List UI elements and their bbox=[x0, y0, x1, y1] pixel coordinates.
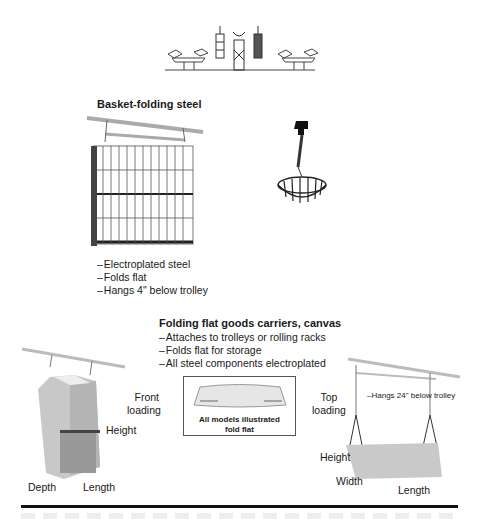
basket-section-title: Basket-folding steel bbox=[97, 98, 202, 110]
front-loading-label: Front loading bbox=[127, 391, 159, 417]
canvas-bullets: Attaches to trolleys or rolling racks Fo… bbox=[159, 331, 326, 370]
basket-bullet: Folds flat bbox=[97, 271, 208, 284]
wire-basket-illustration bbox=[85, 112, 205, 257]
section-divider bbox=[21, 505, 458, 508]
top-loading-label: Top loading bbox=[312, 391, 346, 417]
height-label-front: Height bbox=[106, 424, 136, 437]
hang-note: –Hangs 24" below trolley bbox=[367, 391, 455, 400]
trolley-system-illustration bbox=[160, 20, 320, 75]
basket-bullets: Electroplated steel Folds flat Hangs 4" … bbox=[97, 258, 208, 297]
inset-caption-2: fold flat bbox=[184, 425, 295, 435]
fold-flat-inset: All models illustrated fold flat bbox=[183, 376, 296, 436]
width-label: Width bbox=[336, 475, 363, 488]
cutoff-text-line bbox=[21, 513, 458, 519]
basket-bullet: Hangs 4" below trolley bbox=[97, 284, 208, 297]
inset-caption-1: All models illustrated bbox=[184, 415, 295, 425]
top-loading-carrier-illustration bbox=[346, 355, 464, 480]
depth-label: Depth bbox=[28, 481, 56, 494]
length-label-top: Length bbox=[398, 484, 430, 497]
height-label-top: Height bbox=[320, 451, 350, 464]
front-loading-carrier-illustration bbox=[20, 345, 130, 480]
canvas-section-title: Folding flat goods carriers, canvas bbox=[159, 317, 341, 329]
canvas-bullet: Attaches to trolleys or rolling racks bbox=[159, 331, 326, 344]
canvas-bullet: All steel components electroplated bbox=[159, 357, 326, 370]
basket-bullet: Electroplated steel bbox=[97, 258, 208, 271]
folded-carrier-illustration bbox=[184, 377, 295, 411]
length-label-front: Length bbox=[83, 481, 115, 494]
round-basket-illustration bbox=[272, 115, 332, 210]
canvas-bullet: Folds flat for storage bbox=[159, 344, 326, 357]
